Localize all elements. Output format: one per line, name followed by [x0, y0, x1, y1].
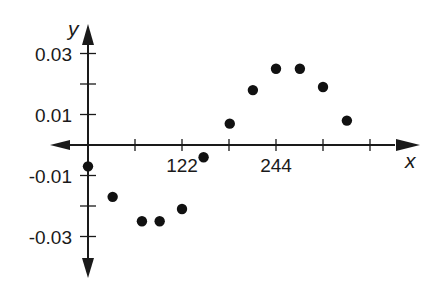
data-point: [154, 216, 164, 226]
data-point: [137, 216, 147, 226]
x-tick-label: 244: [260, 155, 292, 176]
data-point: [225, 118, 235, 128]
y-tick-label: -0.03: [29, 227, 72, 248]
y-tick-label: 0.01: [35, 105, 72, 126]
y-axis-up-arrow-icon: [82, 24, 94, 45]
data-point: [177, 204, 187, 214]
x-axis-label: x: [404, 149, 417, 172]
data-point: [83, 161, 93, 171]
x-axis-left-arrow-icon: [50, 140, 70, 150]
y-tick-label: -0.01: [29, 166, 72, 187]
data-point: [248, 85, 258, 95]
scatter-chart: 1222440.030.01-0.01-0.03 x y: [0, 0, 441, 295]
y-tick-label: 0.03: [35, 44, 72, 65]
data-point: [107, 192, 117, 202]
data-point: [198, 152, 208, 162]
data-point: [271, 64, 281, 74]
data-point: [295, 64, 305, 74]
x-tick-label: 122: [166, 155, 198, 176]
y-axis-label: y: [66, 17, 80, 40]
data-point: [342, 115, 352, 125]
y-axis-down-arrow-icon: [82, 258, 94, 278]
axes: [50, 24, 420, 278]
data-point: [318, 82, 328, 92]
